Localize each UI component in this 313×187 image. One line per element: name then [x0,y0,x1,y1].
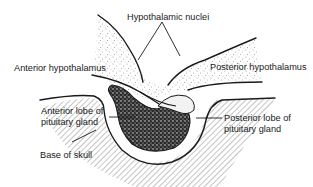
hypothalamic-nuclei-leader [138,22,180,60]
hypothalamus-pituitary-diagram: Hypothalamic nuclei Anterior hypothalamu… [0,0,313,187]
label-posterior-lobe-line2: pituitary gland [224,124,281,134]
label-hypothalamic-nuclei: Hypothalamic nuclei [127,12,209,22]
label-base-of-skull: Base of skull [40,150,92,160]
label-posterior-hypothalamus: Posterior hypothalamus [210,62,307,72]
label-anterior-lobe-line2: pituitary gland [41,117,98,127]
label-anterior-hypothalamus: Anterior hypothalamus [14,63,106,73]
label-anterior-lobe-line1: Anterior lobe of [41,106,104,116]
label-posterior-lobe-line1: Posterior lobe of [224,113,291,123]
